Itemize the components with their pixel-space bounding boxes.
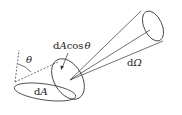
pointer-arrowhead	[61, 66, 65, 71]
angle-theta-label: θ	[26, 54, 32, 65]
projected-area-ellipse	[45, 53, 91, 105]
theta-arc	[18, 64, 31, 72]
solid-angle-ellipse	[138, 8, 168, 45]
solid-angle-label: dΩ	[127, 57, 142, 68]
area-label: dA	[34, 86, 48, 97]
radiance-diagram: dAcosθ θ dA dΩ	[0, 0, 182, 115]
normal-dashed-line	[15, 50, 19, 82]
cone-line-middle	[70, 30, 150, 80]
pointer-arrow	[62, 53, 68, 68]
projected-area-label: dAcosθ	[53, 40, 90, 51]
